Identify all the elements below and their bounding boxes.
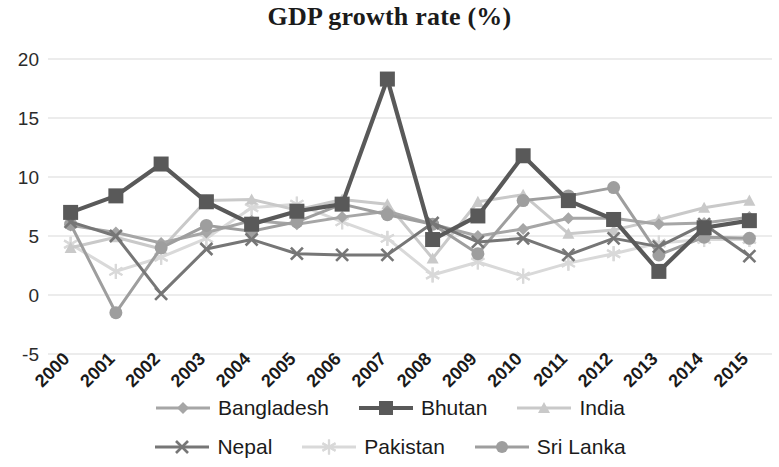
data-point-square [516,148,531,163]
data-point-circle [200,219,213,232]
x-tick-label: 2015 [710,349,752,391]
x-tick-label: 2007 [348,349,390,391]
legend-item-pakistan[interactable]: Pakistan [300,435,445,459]
series-sri-lanka [64,181,756,319]
legend-marker-diamond-icon [154,398,212,418]
data-point-square [154,157,169,172]
data-point-square [470,208,485,223]
plot-svg: -505101520 20002001200220032004200520062… [0,0,779,400]
x-tick-label: 2005 [257,349,299,391]
data-point-circle [155,241,168,254]
legend-marker-square-icon [357,398,415,418]
chart-legend: Bangladesh Bhutan India Nepal Pakistan [0,388,779,467]
legend-marker-x-icon [153,437,211,457]
series-india [65,189,756,264]
legend-label-bangladesh: Bangladesh [218,396,329,420]
legend-label-india: India [579,396,625,420]
data-point-circle [517,194,530,207]
gdp-growth-chart: GDP growth rate (%) -505101520 200020012… [0,0,779,467]
x-tick-label: 2006 [302,349,344,391]
legend-label-sri-lanka: Sri Lanka [537,435,626,459]
data-point-diamond [177,402,189,414]
legend-item-sri-lanka[interactable]: Sri Lanka [473,435,626,459]
legend-item-india[interactable]: India [515,396,625,420]
y-tick-label: 15 [18,108,39,129]
data-point-circle [496,441,508,453]
legend-item-nepal[interactable]: Nepal [153,435,272,459]
x-tick-label: 2002 [121,349,163,391]
y-tick-label: 0 [28,285,39,306]
legend-label-bhutan: Bhutan [421,396,488,420]
data-point-square [742,213,757,228]
legend-marker-circle-icon [473,437,531,457]
data-point-circle [743,232,756,245]
x-tick-label: 2001 [76,349,118,391]
x-tick-label: 2011 [529,349,571,391]
data-point-circle [109,306,122,319]
data-point-x [155,288,167,300]
legend-row-2: Nepal Pakistan Sri Lanka [0,427,779,466]
data-point-square [425,232,440,247]
x-tick-label: 2013 [619,349,661,391]
data-point-square [108,188,123,203]
x-tick-label: 2004 [212,349,254,391]
x-tick-label: 2010 [483,349,525,391]
plot-area: -505101520 20002001200220032004200520062… [0,0,779,400]
data-point-square [199,194,214,209]
x-tick-label: 2008 [393,349,435,391]
data-point-square [63,205,78,220]
data-point-x [743,250,755,262]
legend-marker-star-icon [300,437,358,457]
data-point-square [561,193,576,208]
data-point-square [380,72,395,87]
y-tick-label: 5 [28,226,39,247]
data-point-square [651,264,666,279]
x-tick-label: 2009 [438,349,480,391]
x-tick-label: 2012 [574,349,616,391]
data-point-square [379,401,393,415]
legend-row-1: Bangladesh Bhutan India [0,388,779,427]
data-point-circle [381,208,394,221]
data-point-circle [607,181,620,194]
x-axis-tick-labels: 2000200120022003200420052006200720082009… [31,349,752,391]
y-tick-label: 10 [18,167,39,188]
data-point-diamond [562,212,574,224]
data-point-square [697,220,712,235]
data-point-square [244,217,259,232]
y-tick-label: 20 [18,49,39,70]
gridlines [48,59,772,354]
legend-label-nepal: Nepal [217,435,272,459]
legend-marker-triangle-icon [515,398,573,418]
x-tick-label: 2003 [167,349,209,391]
data-point-square [335,197,350,212]
legend-label-pakistan: Pakistan [364,435,445,459]
data-point-circle [471,247,484,260]
legend-item-bangladesh[interactable]: Bangladesh [154,396,329,420]
legend-item-bhutan[interactable]: Bhutan [357,396,488,420]
y-tick-label: -5 [22,344,39,365]
data-series-group [63,72,757,320]
data-point-square [606,212,621,227]
x-tick-label: 2014 [664,349,706,391]
data-point-square [289,204,304,219]
y-axis-tick-labels: -505101520 [18,49,39,365]
